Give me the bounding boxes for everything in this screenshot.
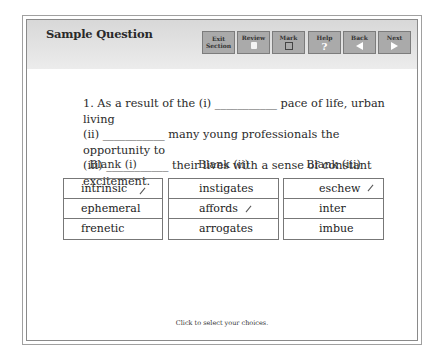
pencil-mark-icon — [246, 206, 252, 213]
review-page-icon — [251, 42, 257, 49]
choice-inter[interactable]: inter — [284, 199, 383, 219]
instruction-text: Click to select your choices. — [27, 319, 417, 327]
choice-arrogates[interactable]: arrogates — [169, 219, 278, 239]
choice-eschew[interactable]: eschew — [284, 179, 383, 199]
right-arrow-icon — [391, 42, 398, 50]
blank-i-choices: intrinsic ephemeral frenetic — [63, 178, 163, 240]
blank-iii-label: Blank (iii) — [283, 158, 384, 171]
next-button[interactable]: Next — [378, 31, 411, 54]
review-label: Review — [242, 34, 266, 41]
choice-label: inter — [319, 202, 346, 215]
mark-label: Mark — [280, 34, 298, 41]
choice-label: ephemeral — [81, 202, 140, 215]
choice-label: frenetic — [81, 222, 125, 235]
exit-section-button[interactable]: Exit Section — [202, 31, 235, 54]
choice-label: imbue — [319, 222, 354, 235]
blank-i-label: Blank (i) — [63, 158, 163, 171]
review-button[interactable]: Review — [237, 31, 270, 54]
back-label: Back — [351, 34, 368, 41]
next-label: Next — [387, 34, 403, 41]
choice-label: affords — [199, 202, 238, 215]
choice-frenetic[interactable]: frenetic — [64, 219, 162, 239]
choice-label: instigates — [199, 182, 253, 195]
choice-intrinsic[interactable]: intrinsic — [64, 179, 162, 199]
choice-label: intrinsic — [81, 182, 127, 195]
pencil-mark-icon — [140, 188, 146, 195]
header-bar: Sample Question Exit Section Review Mark… — [27, 20, 417, 69]
blank-iii-choices: eschew inter imbue — [283, 178, 384, 240]
question-mark-icon: ? — [309, 42, 340, 51]
question-text: 1. As a result of the (i) ___________ pa… — [83, 96, 403, 189]
left-arrow-icon — [356, 42, 363, 50]
question-panel: Sample Question Exit Section Review Mark… — [26, 19, 418, 341]
section-label: Section — [206, 42, 231, 49]
blank-ii-label: Blank (ii) — [168, 158, 279, 171]
pencil-mark-icon — [368, 185, 374, 192]
choice-label: eschew — [319, 182, 360, 195]
choice-imbue[interactable]: imbue — [284, 219, 383, 239]
checkbox-icon — [285, 42, 293, 50]
mark-button[interactable]: Mark — [272, 31, 305, 54]
choice-instigates[interactable]: instigates — [169, 179, 278, 199]
back-button[interactable]: Back — [343, 31, 376, 54]
help-button[interactable]: Help ? — [308, 31, 341, 54]
choice-ephemeral[interactable]: ephemeral — [64, 199, 162, 219]
page-title: Sample Question — [46, 27, 153, 41]
choice-affords[interactable]: affords — [169, 199, 278, 219]
exit-label: Exit — [212, 35, 225, 42]
choice-label: arrogates — [199, 222, 253, 235]
blank-ii-choices: instigates affords arrogates — [168, 178, 279, 240]
question-line-2: (ii) ___________ many young professional… — [83, 127, 403, 158]
question-line-1: 1. As a result of the (i) ___________ pa… — [83, 96, 403, 127]
help-label: Help — [317, 34, 333, 41]
